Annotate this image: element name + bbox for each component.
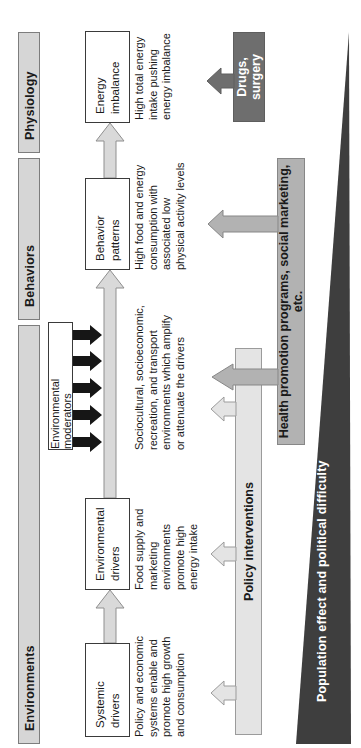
policy-arrow-icon xyxy=(211,397,236,421)
behavior-patterns-description: High food and energy consumption with as… xyxy=(133,158,187,270)
policy-interventions-bar: Policy interventions xyxy=(235,348,262,735)
energy-imbalance-box: Energy imbalance xyxy=(85,31,130,123)
moderators-description: Sociocultural, socioeconomic, recreation… xyxy=(133,282,187,450)
moderator-arrow-icon xyxy=(72,432,102,452)
moderator-arrow-icon xyxy=(72,405,102,425)
policy-arrow-icon xyxy=(211,681,236,705)
header-environments: Environments xyxy=(18,325,40,744)
behavior-patterns-box: Behavior patterns xyxy=(85,178,130,270)
figure-canvas: Environments Behaviors Physiology Enviro… xyxy=(0,0,361,748)
moderator-arrow-icon xyxy=(72,378,102,398)
environmental-moderators-box: Environmental moderators xyxy=(48,322,73,450)
health-promotion-bar: Health promotion programs, social market… xyxy=(277,158,305,445)
policy-arrow-icon xyxy=(211,542,236,566)
flow-arrow-icon xyxy=(96,270,124,498)
systemic-drivers-box: Systemic drivers xyxy=(85,643,130,737)
figure-viewport: Environments Behaviors Physiology Enviro… xyxy=(0,0,361,748)
header-physiology: Physiology xyxy=(18,32,40,153)
flow-arrow-icon xyxy=(96,123,124,178)
energy-imbalance-description: High total energy intake pushing energy … xyxy=(133,20,174,120)
environmental-drivers-box: Environmental drivers xyxy=(85,498,130,590)
moderator-arrow-icon xyxy=(72,351,102,371)
flow-arrow-icon xyxy=(96,590,124,643)
systemic-drivers-description: Policy and economic systems enable and p… xyxy=(133,629,187,737)
population-wedge-label: Population effect and political difficul… xyxy=(315,460,329,702)
drugs-surgery-bar: Drugs, surgery xyxy=(233,32,265,122)
moderator-arrow-icon xyxy=(72,325,102,345)
header-behaviors: Behaviors xyxy=(18,158,40,320)
health-arrow-icon xyxy=(208,210,278,238)
environmental-drivers-description: Food supply and marketing environments p… xyxy=(133,498,201,590)
drugs-arrow-icon xyxy=(207,68,234,94)
